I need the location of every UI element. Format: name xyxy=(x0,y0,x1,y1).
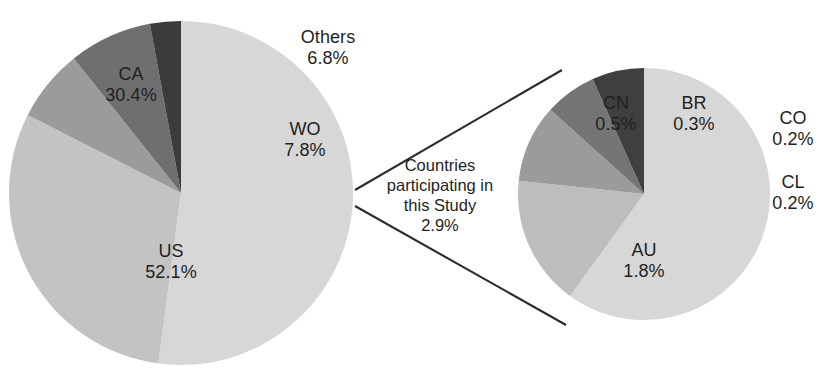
label-ca: CA 30.4% xyxy=(86,64,176,106)
label-others-name: Others xyxy=(301,27,356,47)
label-cl: CL 0.2% xyxy=(760,172,826,214)
label-br-value: 0.3% xyxy=(654,114,734,135)
label-cn-name: CN xyxy=(603,93,629,113)
label-cl-value: 0.2% xyxy=(760,193,826,214)
label-wo-name: WO xyxy=(289,119,320,139)
callout-line-4: 2.9% xyxy=(421,216,459,234)
label-br: BR 0.3% xyxy=(654,93,734,135)
label-au-value: 1.8% xyxy=(604,261,684,282)
pie-chart-figure: CA 30.4% Others 6.8% WO 7.8% US 52.1% Co… xyxy=(0,0,830,378)
label-br-name: BR xyxy=(681,93,706,113)
label-co-value: 0.2% xyxy=(760,129,826,150)
label-co-name: CO xyxy=(779,108,806,128)
callout-line-3: this Study xyxy=(404,196,476,214)
main-pie-slices xyxy=(9,21,353,365)
callout-countries-note: Countries participating in this Study 2.… xyxy=(372,155,508,236)
label-ca-name: CA xyxy=(118,64,143,84)
label-others: Others 6.8% xyxy=(273,27,383,69)
label-cl-name: CL xyxy=(781,172,804,192)
label-co: CO 0.2% xyxy=(760,108,826,150)
label-ca-value: 30.4% xyxy=(86,85,176,106)
label-us-name: US xyxy=(158,241,183,261)
label-us: US 52.1% xyxy=(121,241,221,283)
label-cn: CN 0.5% xyxy=(576,93,656,135)
label-au: AU 1.8% xyxy=(604,240,684,282)
callout-line-2: participating in xyxy=(387,176,493,194)
label-au-name: AU xyxy=(631,240,656,260)
label-wo-value: 7.8% xyxy=(262,140,348,161)
callout-line-1: Countries xyxy=(405,156,476,174)
label-others-value: 6.8% xyxy=(273,48,383,69)
slice-us[interactable] xyxy=(158,21,353,365)
label-cn-value: 0.5% xyxy=(576,114,656,135)
label-us-value: 52.1% xyxy=(121,262,221,283)
label-wo: WO 7.8% xyxy=(262,119,348,161)
